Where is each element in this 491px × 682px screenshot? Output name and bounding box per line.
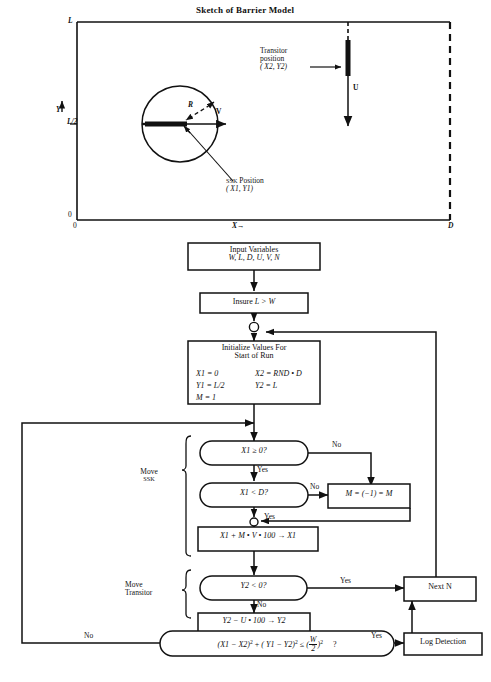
- figure-title: Sketch of Barrier Model: [196, 6, 294, 15]
- axis-label-L-over-2: L/2: [67, 118, 77, 126]
- detect-term2: ( Y1 − Y2): [261, 640, 295, 649]
- next-n-text: Next N: [428, 582, 451, 591]
- label-radius-R: R: [188, 101, 193, 109]
- axis-label-X: X→: [232, 222, 245, 230]
- edge-label-yes-1: Yes: [257, 466, 268, 474]
- junction-ssk-merge: [250, 518, 258, 526]
- detect-question: ?: [323, 640, 337, 649]
- transitor-line3: ( X2, Y2): [260, 63, 287, 71]
- move-ssk-line2: SSK: [126, 476, 172, 483]
- node-insure-label: Insure L > W: [200, 298, 308, 306]
- initialize-y1: Y1 = L/2: [196, 382, 225, 390]
- initialize-x2: X2 = RND • D: [255, 370, 302, 378]
- ssk-acronym: SSK: [226, 177, 237, 184]
- group-brackets: [182, 436, 191, 618]
- move-transitor-line2: Transitor: [125, 589, 152, 597]
- figure-canvas: Sketch of Barrier Model L Y L/2 0 0 X→ D…: [0, 0, 491, 682]
- detect-term1: X1 − X2: [220, 640, 247, 649]
- edge-label-no-3: No: [257, 601, 266, 609]
- node-log-detection-label: Log Detection: [404, 638, 482, 646]
- axis-label-D: D: [448, 222, 453, 230]
- node-flip-m-label: M = (−1) = M: [328, 490, 410, 498]
- decision-x1-ge-0-label: X1 ≥ 0?: [200, 447, 308, 455]
- ssk-body: [145, 122, 187, 127]
- axis-label-L: L: [68, 17, 73, 25]
- edge-label-yes-4: Yes: [371, 632, 382, 640]
- node-update-x1-label: X1 + M • V • 100 → X1: [198, 532, 318, 540]
- edge-label-no-4: No: [84, 632, 93, 640]
- edge-label-yes-2: Yes: [264, 513, 275, 521]
- ssk-label-leader: [186, 128, 233, 181]
- group-label-move-transitor: Move Transitor: [125, 581, 152, 597]
- group-label-move-ssk: Move SSK: [126, 468, 172, 482]
- edge-label-no-2: No: [310, 483, 319, 491]
- ssk-position-line2: ( X1, Y1): [226, 185, 264, 193]
- transitor-body: [346, 40, 351, 76]
- initialize-m: M = 1: [196, 394, 216, 402]
- node-detection-test-label: (X1 − X2)2 + ( Y1 − Y2)2 ≤ (W2)2?: [160, 636, 394, 653]
- edge-flipm-return: [261, 508, 410, 521]
- edge-label-no-1: No: [332, 441, 341, 449]
- label-velocity-U: U: [353, 84, 358, 92]
- decision-y2-lt-0-label: Y2 < 0?: [200, 582, 307, 590]
- detect-leq: ≤: [298, 640, 306, 649]
- input-variables-list: W, L, D, U, V, N: [188, 254, 320, 262]
- initialize-line2: Start of Run: [188, 352, 320, 360]
- node-next-n-label: Next N: [404, 583, 476, 591]
- axis-label-Y: Y: [56, 106, 61, 114]
- axis-label-zero-x: 0: [73, 222, 77, 230]
- bracket-move-transitor: [182, 570, 191, 618]
- node-initialize-label: Initialize Values For Start of Run: [188, 344, 320, 361]
- label-ssk-position: SSK Position ( X1, Y1): [226, 177, 264, 193]
- initialize-x1: X1 = 0: [196, 370, 218, 378]
- label-transitor-position: Transitor position ( X2, Y2): [260, 47, 287, 71]
- label-velocity-V: V: [216, 108, 221, 116]
- edge-label-yes-3: Yes: [340, 577, 351, 585]
- decision-x1-lt-d-label: X1 < D?: [200, 489, 308, 497]
- figure-vector-layer: [0, 0, 491, 682]
- transitor-group: [310, 22, 351, 126]
- insure-expression: L > W: [255, 297, 275, 306]
- bracket-move-ssk: [182, 436, 191, 556]
- node-input-variables-label: Input Variables W, L, D, U, V, N: [188, 246, 320, 263]
- node-update-y2-label: Y2 − U • 100 → Y2: [198, 617, 310, 625]
- ssk-label-arrowhead: [184, 126, 190, 133]
- insure-prefix: Insure: [233, 297, 255, 306]
- junction-main-loop: [249, 322, 258, 331]
- initialize-y2: Y2 = L: [255, 382, 277, 390]
- axis-label-zero-y: 0: [68, 211, 72, 219]
